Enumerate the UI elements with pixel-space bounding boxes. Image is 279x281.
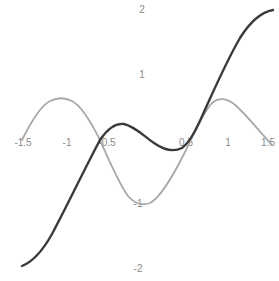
x-tick-label: -1: [63, 137, 72, 148]
dark-series-line: [22, 10, 273, 266]
x-tick-label: 1.5: [261, 137, 275, 148]
line-chart: 2 1 -1 -2 -1.5 -1 -0.5 0.5 1 1.5: [0, 0, 279, 281]
y-tick-label: 1: [139, 69, 145, 80]
chart-container: 2 1 -1 -2 -1.5 -1 -0.5 0.5 1 1.5: [0, 0, 279, 281]
y-tick-label: -2: [134, 263, 143, 274]
x-tick-label: 1: [225, 137, 231, 148]
y-tick-label: 2: [139, 4, 145, 15]
light-series-line: [22, 98, 272, 204]
